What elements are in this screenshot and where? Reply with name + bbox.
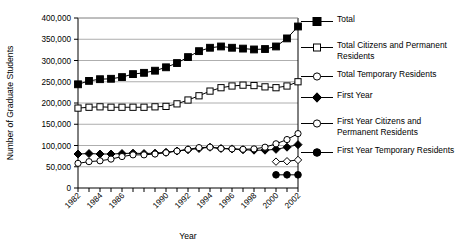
series-4 (75, 131, 301, 167)
legend-marker-open-square (300, 40, 334, 53)
data-point (174, 148, 180, 154)
data-point (185, 97, 191, 103)
data-point (251, 46, 258, 53)
data-point (174, 60, 181, 67)
legend-label-total: Total (334, 14, 355, 25)
y-tick-label: 200,000 (41, 99, 71, 108)
data-point (97, 104, 103, 110)
data-point (273, 172, 280, 179)
data-point (284, 172, 291, 179)
data-point (130, 104, 136, 110)
y-tick-label: 150,000 (41, 120, 71, 129)
legend-label-first-year-citizens: First Year Citizens and Permanent Reside… (334, 116, 455, 137)
data-point (196, 93, 202, 99)
data-point (86, 78, 93, 85)
data-point (141, 69, 148, 76)
data-point (273, 141, 279, 147)
legend-item-first-year-citizens: First Year Citizens and Permanent Reside… (300, 116, 455, 137)
y-tick-label: 250,000 (41, 78, 71, 87)
x-tick-label: 1996 (217, 191, 237, 211)
legend-item-total-temporary: Total Temporary Residents (300, 69, 455, 82)
data-point (218, 43, 225, 50)
x-tick-label: 1982 (63, 191, 83, 211)
data-point (207, 44, 214, 51)
data-point (262, 144, 268, 150)
data-point (130, 152, 136, 158)
data-point (185, 146, 191, 152)
y-tick-label: 100,000 (41, 142, 71, 151)
data-point (97, 76, 104, 83)
data-point (163, 64, 170, 71)
data-point (119, 104, 125, 110)
y-tick-label: 50,000 (46, 163, 71, 172)
legend-label-first-year-temporary: First Year Temporary Residents (334, 145, 454, 156)
x-tick-label: 2000 (261, 191, 281, 211)
data-point (262, 84, 268, 90)
data-point (284, 35, 291, 42)
x-tick-label: 1994 (195, 191, 215, 211)
data-point (196, 145, 202, 151)
series-6 (272, 156, 301, 165)
data-point (240, 45, 247, 52)
chart-figure: 050,000100,000150,000200,000250,000300,0… (0, 0, 455, 247)
data-point (273, 85, 279, 91)
data-point (86, 104, 92, 110)
data-point (284, 83, 290, 89)
data-point (152, 104, 158, 110)
y-tick-label: 300,000 (41, 57, 71, 66)
data-point (108, 104, 114, 110)
data-point (229, 83, 235, 89)
data-point (152, 151, 158, 157)
data-point (108, 75, 115, 82)
data-point (119, 153, 125, 159)
data-point (218, 145, 224, 151)
data-point (229, 44, 236, 51)
x-tick-label: 2002 (283, 191, 303, 211)
data-point (207, 144, 213, 150)
data-point (75, 81, 82, 88)
data-point (96, 150, 104, 158)
chart-legend: Total Total Citizens and Permanent Resid… (300, 14, 455, 162)
data-point (295, 172, 302, 179)
legend-item-total-citizens: Total Citizens and Permanent Residents (300, 40, 455, 61)
legend-label-first-year: First Year (334, 90, 373, 101)
legend-marker-filled-diamond (300, 90, 334, 103)
data-point (196, 48, 203, 55)
x-tick-label: 1984 (85, 191, 105, 211)
data-point (85, 150, 93, 158)
data-point (240, 146, 246, 152)
data-point (152, 67, 159, 74)
data-point (251, 82, 257, 88)
data-point (229, 146, 235, 152)
data-point (283, 143, 291, 151)
legend-label-total-citizens: Total Citizens and Permanent Residents (334, 40, 455, 61)
data-point (141, 152, 147, 158)
legend-item-first-year: First Year (300, 90, 455, 103)
data-point (75, 105, 81, 111)
data-point (283, 158, 290, 165)
data-point (207, 88, 213, 94)
data-point (163, 103, 169, 109)
y-tick-label: 0 (66, 184, 71, 193)
y-tick-label: 350,000 (41, 35, 71, 44)
series-0 (75, 23, 302, 88)
data-point (119, 74, 126, 81)
data-point (251, 146, 257, 152)
data-point (75, 160, 81, 166)
x-tick-label: 1986 (107, 191, 127, 211)
data-point (240, 82, 246, 88)
data-point (163, 150, 169, 156)
series-5 (273, 172, 302, 179)
data-point (74, 150, 82, 158)
legend-marker-filled-square (300, 14, 334, 27)
legend-marker-open-circle (300, 69, 334, 82)
legend-item-first-year-temporary: First Year Temporary Residents (300, 145, 455, 158)
legend-label-total-temporary: Total Temporary Residents (334, 69, 437, 80)
x-axis-title: Year (179, 231, 197, 241)
data-point (86, 159, 92, 165)
data-point (174, 101, 180, 107)
legend-item-total: Total (300, 14, 455, 27)
data-point (185, 54, 192, 61)
legend-marker-filled-circle (300, 145, 334, 158)
x-tick-label: 1990 (151, 191, 171, 211)
